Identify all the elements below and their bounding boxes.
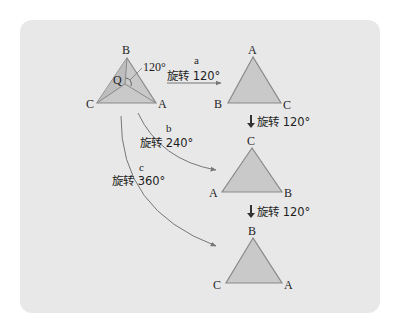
- step-arrow-1: [247, 115, 255, 128]
- vertex-label-right: A: [158, 97, 167, 111]
- down-arrow-icon: [247, 123, 255, 128]
- arrow-b-label: 旋转 240°: [140, 136, 193, 150]
- vertex-label-right: A: [284, 278, 293, 292]
- step-arrow-2-label: 旋转 120°: [257, 205, 310, 219]
- vertex-label-left: C: [213, 278, 221, 292]
- result-triangle-c: [226, 238, 282, 283]
- vertex-label-top: B: [248, 224, 256, 238]
- vertex-label-right: C: [283, 98, 291, 112]
- arrow-c-label: 旋转 360°: [112, 174, 165, 188]
- vertex-label-right: B: [284, 186, 292, 200]
- arrow-b-letter: b: [166, 122, 172, 134]
- vertex-label-top: C: [247, 134, 255, 148]
- step-arrow-1-label: 旋转 120°: [257, 115, 310, 129]
- rotation-diagram: B C A Q 120° a 旋转 120° A B C 旋转 120° b 旋…: [0, 0, 399, 334]
- vertex-label-left: A: [209, 186, 218, 200]
- result-triangle-a: [228, 57, 281, 103]
- vertex-label-top: B: [122, 43, 130, 57]
- vertex-label-left: B: [214, 97, 222, 111]
- angle-label: 120°: [143, 60, 166, 74]
- vertex-label-top: A: [248, 43, 257, 57]
- arrow-a-letter: a: [194, 54, 199, 66]
- center-label: Q: [113, 73, 122, 87]
- down-arrow-icon: [247, 213, 255, 218]
- result-triangle-b: [222, 148, 282, 192]
- arrow-c-letter: c: [139, 161, 144, 173]
- step-arrow-2: [247, 205, 255, 218]
- vertex-label-left: C: [86, 97, 94, 111]
- arrow-a-label: 旋转 120°: [167, 69, 220, 83]
